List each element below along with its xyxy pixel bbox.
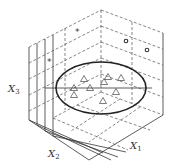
circle-markers	[124, 39, 149, 52]
circle-marker	[145, 48, 149, 52]
triangle-marker	[71, 92, 78, 98]
axis-label-x3: X3	[7, 83, 20, 96]
triangle-marker	[81, 76, 88, 82]
axis-label-x2: X2	[47, 148, 60, 161]
grid-back-left	[29, 26, 101, 111]
triangle-marker	[113, 89, 120, 95]
triangle-marker	[87, 85, 94, 91]
feature-space-diagram: ** X3 X2 X1	[0, 0, 172, 168]
circle-marker	[124, 39, 128, 43]
triangle-marker	[100, 98, 107, 104]
asterisk-marker: *	[75, 27, 80, 37]
asterisk-marker: *	[47, 57, 52, 67]
triangle-marker	[118, 75, 125, 81]
axis-label-x1: X1	[129, 140, 142, 153]
triangle-markers	[71, 74, 125, 104]
cluster-boundary	[45, 62, 152, 114]
asterisk-markers: **	[47, 27, 80, 67]
